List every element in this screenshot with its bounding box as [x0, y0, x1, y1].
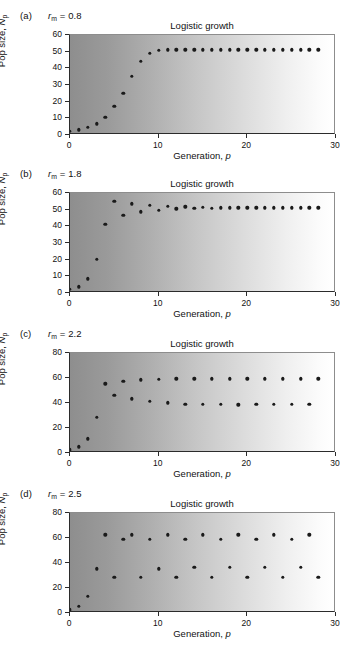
panel-d-letter: (d)	[20, 488, 42, 499]
panel-d-plot-area	[69, 512, 335, 612]
data-point	[237, 403, 240, 406]
x-axis-tick-label: 10	[153, 459, 162, 468]
data-point	[121, 537, 124, 540]
data-point	[130, 397, 133, 400]
x-axis-tick	[69, 612, 70, 616]
data-point	[228, 48, 231, 51]
data-point	[246, 206, 249, 209]
data-point	[308, 533, 311, 536]
x-axis-tick-label: 0	[67, 619, 72, 628]
data-point	[290, 402, 293, 405]
data-point	[166, 48, 169, 51]
x-axis-tick	[246, 134, 247, 138]
data-point	[254, 537, 257, 540]
data-point	[228, 206, 231, 209]
data-point	[201, 205, 204, 208]
data-point	[139, 210, 142, 213]
x-axis-tick	[158, 612, 159, 616]
x-axis-tick-label: 10	[153, 619, 162, 628]
data-point	[263, 566, 266, 569]
panel-c: (c)rm = 2.2 Logistic growth 020406080010…	[0, 322, 359, 482]
data-point	[308, 206, 311, 209]
data-point	[201, 402, 204, 405]
data-point	[290, 537, 293, 540]
data-point	[157, 377, 160, 380]
y-axis-tick-label: 40	[53, 221, 62, 230]
panel-b-chart-title: Logistic growth	[69, 178, 335, 189]
data-point	[104, 382, 107, 385]
data-point	[69, 288, 72, 291]
data-point	[184, 537, 187, 540]
x-axis-tick-label: 30	[330, 141, 339, 150]
data-point	[95, 416, 98, 419]
y-axis-tick-label: 50	[53, 205, 62, 214]
data-point	[201, 48, 204, 51]
x-axis-tick-label: 20	[242, 141, 251, 150]
data-point	[184, 205, 187, 208]
y-axis-tick-label: 0	[57, 288, 62, 297]
panel-a-plot-area	[69, 34, 335, 134]
panel-c-xlabel: Generation, p	[69, 468, 335, 479]
data-point	[166, 533, 169, 536]
data-point	[166, 401, 169, 404]
panel-b-letter: (b)	[20, 168, 42, 179]
data-point	[219, 402, 222, 405]
x-axis-tick	[246, 292, 247, 296]
panel-d-chart-title: Logistic growth	[69, 498, 335, 509]
y-axis-tick-label: 0	[57, 448, 62, 457]
data-point	[113, 105, 116, 108]
data-point	[69, 608, 72, 611]
y-axis-tick-label: 80	[53, 348, 62, 357]
data-point	[175, 48, 178, 51]
y-axis-tick-label: 0	[57, 130, 62, 139]
panel-b-xlabel: Generation, p	[69, 308, 335, 319]
x-axis-tick-label: 10	[153, 299, 162, 308]
x-axis-tick	[246, 612, 247, 616]
data-point	[281, 48, 284, 51]
x-axis-tick-label: 20	[242, 459, 251, 468]
y-axis-tick-label: 60	[53, 30, 62, 39]
x-axis-tick	[158, 134, 159, 138]
data-point	[237, 206, 240, 209]
data-point	[237, 533, 240, 536]
y-axis-tick	[65, 612, 69, 613]
data-point	[130, 75, 133, 78]
data-point	[299, 48, 302, 51]
data-point	[317, 48, 320, 51]
x-axis-tick-label: 0	[67, 459, 72, 468]
data-point	[121, 213, 124, 216]
x-axis-tick-label: 30	[330, 619, 339, 628]
panel-d: (d)rm = 2.5 Logistic growth 020406080010…	[0, 482, 359, 642]
panel-b-ylabel: Pop size, Np	[0, 149, 10, 249]
y-axis-tick-label: 20	[53, 255, 62, 264]
y-axis-tick	[65, 452, 69, 453]
y-axis-tick-label: 20	[53, 423, 62, 432]
panel-c-plot-area	[69, 352, 335, 452]
data-point	[317, 576, 320, 579]
data-point	[157, 48, 160, 51]
data-point	[130, 202, 133, 205]
data-point	[281, 206, 284, 209]
panel-b: (b)rm = 1.8 Logistic growth 010203040506…	[0, 162, 359, 322]
data-point	[281, 377, 284, 380]
data-point	[219, 537, 222, 540]
data-point	[263, 206, 266, 209]
data-point	[210, 576, 213, 579]
data-point	[308, 402, 311, 405]
x-axis-tick-label: 10	[153, 141, 162, 150]
data-point	[166, 204, 169, 207]
data-point	[77, 285, 80, 288]
data-point	[77, 128, 80, 131]
data-point	[175, 207, 178, 210]
data-point	[130, 533, 133, 536]
data-point	[113, 394, 116, 397]
data-point	[192, 566, 195, 569]
data-point	[77, 445, 80, 448]
data-point	[272, 402, 275, 405]
data-point	[86, 277, 89, 280]
data-point	[317, 206, 320, 209]
data-point	[210, 377, 213, 380]
panel-a-chart-title: Logistic growth	[69, 20, 335, 31]
data-point	[86, 125, 89, 128]
x-axis-tick	[158, 452, 159, 456]
